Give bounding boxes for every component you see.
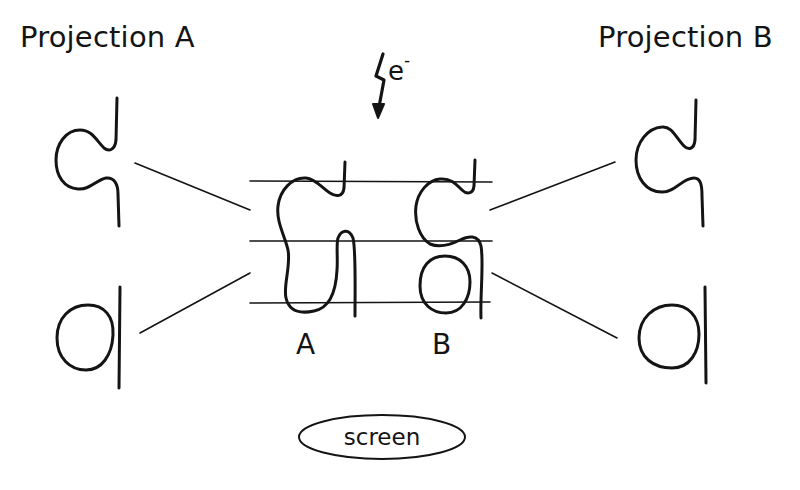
projection-b-title: Projection B — [598, 20, 773, 54]
projection-a-top-shape — [56, 98, 119, 226]
molecule-b-strand — [416, 160, 483, 318]
connector-a-bottom — [140, 273, 250, 333]
electron-beam-label: e- — [388, 54, 410, 86]
connector-b-bottom — [492, 273, 617, 338]
projection-b-top-shape — [636, 100, 703, 226]
connector-a-top — [135, 163, 250, 210]
electron-symbol: e — [388, 56, 404, 86]
connector-b-top — [490, 162, 615, 210]
lightning-arrow-icon — [373, 54, 384, 118]
molecule-b-ring — [420, 256, 470, 313]
electron-charge: - — [404, 50, 410, 70]
molecule-b-label: B — [432, 328, 451, 361]
projection-b-bottom-shape — [639, 287, 706, 383]
connector-lines — [135, 162, 617, 338]
screen: screen — [299, 415, 465, 459]
projection-a-bottom-shape — [57, 287, 120, 388]
projection-a-title: Projection A — [20, 20, 195, 54]
molecule-a-label: A — [296, 328, 315, 361]
molecule-a-strand — [278, 162, 355, 316]
screen-label: screen — [299, 415, 465, 459]
reference-line-top — [250, 181, 492, 182]
